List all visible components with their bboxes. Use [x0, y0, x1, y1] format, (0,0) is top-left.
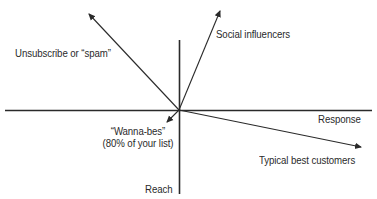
typical-best-customers-label: Typical best customers — [259, 154, 355, 166]
social-influencers-arrow — [179, 11, 220, 110]
wanna-bes-label-line2: (80% of your list) — [101, 137, 175, 149]
wanna-bes-label-line1: “Wanna-bes” — [101, 125, 175, 137]
diagram-graphics — [0, 0, 377, 199]
wanna-bes-label: “Wanna-bes” (80% of your list) — [101, 125, 175, 149]
unsubscribe-arrow — [89, 14, 179, 110]
wanna-bes-arrow — [167, 110, 179, 122]
reach-response-diagram: Unsubscribe or “spam” Social influencers… — [0, 0, 377, 199]
response-axis-label: Response — [318, 113, 361, 125]
unsubscribe-label: Unsubscribe or “spam” — [15, 47, 111, 59]
social-influencers-label: Social influencers — [216, 28, 290, 40]
reach-axis-label: Reach — [145, 183, 172, 195]
